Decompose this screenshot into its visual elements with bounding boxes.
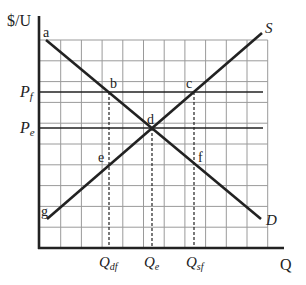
point-e-label: e xyxy=(98,150,104,165)
supply-curve-label: S xyxy=(265,20,273,36)
y-axis-label: $/U xyxy=(7,12,31,29)
qdf-label: Qdf xyxy=(99,254,119,272)
point-g-label: g xyxy=(41,204,48,219)
point-c-label: c xyxy=(186,76,192,91)
qsf-label: Qsf xyxy=(186,254,205,272)
point-d-label: d xyxy=(147,112,154,127)
qe-label: Qe xyxy=(144,254,160,272)
point-b-label: b xyxy=(110,76,117,91)
pf-label: Pf xyxy=(19,83,35,102)
supply-demand-chart: $/U Q Pf Pe Qdf Qe Qsf a b c d e f g S D xyxy=(0,0,306,285)
point-a-label: a xyxy=(43,25,50,40)
grid xyxy=(40,40,268,248)
x-axis-label: Q xyxy=(280,256,292,273)
point-f-label: f xyxy=(198,150,203,165)
pe-label: Pe xyxy=(19,119,35,138)
demand-curve-label: D xyxy=(265,212,277,228)
